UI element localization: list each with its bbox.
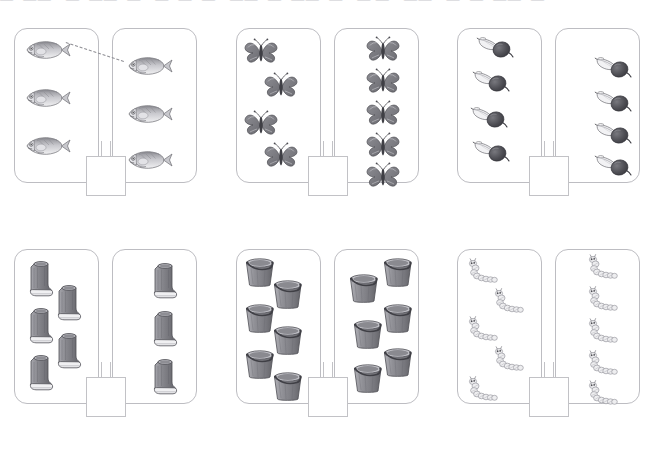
caterpillar-icon (584, 380, 620, 408)
bucket-icon (347, 272, 381, 304)
connector-stem-right (553, 141, 554, 157)
connector-stem-left (323, 362, 324, 378)
bucket-icon (381, 256, 415, 288)
fish-icon (127, 149, 173, 171)
top-cutoff-text-strip: — —— — —— — — — — —— — —— — — — —— — — —… (0, 0, 663, 12)
bucket-icon (351, 362, 385, 394)
connector-stem-left (323, 141, 324, 157)
beet-icon (476, 35, 514, 61)
connector-stem-left (101, 141, 102, 157)
beet-icon (470, 105, 508, 131)
answer-box-boot[interactable] (86, 377, 126, 417)
caterpillar-icon (584, 350, 620, 378)
caterpillar-icon (464, 376, 500, 404)
boot-icon (27, 258, 55, 298)
fish-icon (25, 135, 71, 157)
caterpillar-icon (490, 346, 526, 374)
connector-stem-left (544, 141, 545, 157)
answer-box-caterpillar[interactable] (529, 377, 569, 417)
answer-box-beet[interactable] (529, 156, 569, 196)
boot-icon (151, 308, 179, 348)
answer-box-fish[interactable] (86, 156, 126, 196)
butterfly-icon (243, 37, 279, 67)
answer-box-butterfly[interactable] (308, 156, 348, 196)
fish-icon (127, 55, 173, 77)
butterfly-icon (243, 109, 279, 139)
bucket-icon (381, 346, 415, 378)
top-cutoff-text: — —— — —— — — — — —— — —— — — — —— — — —… (0, 0, 663, 7)
butterfly-icon (263, 71, 299, 101)
fish-icon (127, 103, 173, 125)
caterpillar-icon (464, 316, 500, 344)
worksheet-page: — —— — —— — — — — —— — —— — — — —— — — —… (0, 0, 663, 464)
butterfly-icon (365, 35, 401, 65)
butterfly-icon (365, 67, 401, 97)
bucket-icon (271, 370, 305, 402)
bucket-icon (381, 302, 415, 334)
beet-icon (472, 139, 510, 165)
connector-stem-left (101, 362, 102, 378)
boot-icon (55, 330, 83, 370)
caterpillar-icon (490, 288, 526, 316)
caterpillar-icon (584, 318, 620, 346)
boot-icon (27, 305, 55, 345)
fish-icon (25, 87, 71, 109)
beet-icon (594, 153, 632, 179)
connector-stem-right (332, 362, 333, 378)
connector-stem-right (332, 141, 333, 157)
boot-icon (151, 260, 179, 300)
fish-icon (25, 39, 71, 61)
beet-icon (594, 55, 632, 81)
comparison-panel-bucket (236, 249, 419, 464)
boot-icon (27, 352, 55, 392)
comparison-panel-fish (14, 28, 197, 253)
caterpillar-icon (584, 286, 620, 314)
caterpillar-icon (584, 254, 620, 282)
connector-stem-left (544, 362, 545, 378)
boot-icon (55, 282, 83, 322)
connector-stem-right (110, 362, 111, 378)
beet-icon (594, 121, 632, 147)
boot-icon (151, 356, 179, 396)
comparison-panel-butterfly (236, 28, 419, 253)
comparison-panel-boot (14, 249, 197, 464)
butterfly-icon (365, 161, 401, 191)
beet-icon (594, 89, 632, 115)
caterpillar-icon (464, 258, 500, 286)
connector-stem-right (553, 362, 554, 378)
bucket-icon (351, 318, 385, 350)
comparison-panel-beet (457, 28, 640, 253)
comparison-panel-caterpillar (457, 249, 640, 464)
answer-box-bucket[interactable] (308, 377, 348, 417)
beet-icon (472, 69, 510, 95)
butterfly-icon (263, 141, 299, 171)
butterfly-icon (365, 131, 401, 161)
butterfly-icon (365, 99, 401, 129)
connector-stem-right (110, 141, 111, 157)
